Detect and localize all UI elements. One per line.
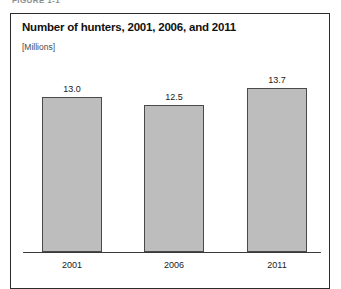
bar-value-label: 13.0 (42, 84, 102, 94)
bar-value-label: 12.5 (144, 92, 204, 102)
figure-caption-cutoff: FIGURE 1-1 (12, 0, 132, 6)
bar-rect[interactable] (144, 105, 204, 252)
x-tick-label: 2001 (42, 260, 102, 270)
figure-caption-text: FIGURE 1-1 (12, 0, 132, 5)
plot-area: 13.0 2001 12.5 2006 13.7 2011 (11, 14, 329, 288)
bar-rect[interactable] (42, 97, 102, 252)
x-tick-label: 2011 (247, 260, 307, 270)
x-axis-baseline (23, 252, 321, 253)
x-tick-label: 2006 (144, 260, 204, 270)
bar-rect[interactable] (247, 88, 307, 252)
bar-value-label: 13.7 (247, 75, 307, 85)
figure-frame: Number of hunters, 2001, 2006, and 2011 … (10, 13, 330, 289)
